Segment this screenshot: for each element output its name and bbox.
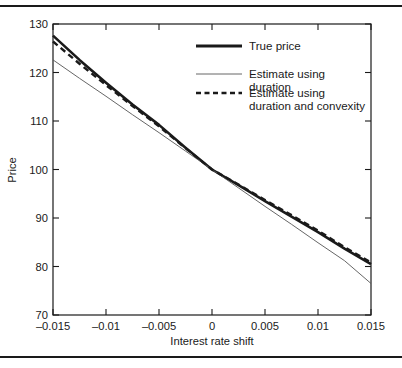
y-tick-label: 100 [29,164,48,176]
y-tick-label: 90 [36,212,48,224]
legend-label-2: Estimate using [249,86,325,99]
x-tick-label: 0 [209,320,215,332]
top-horizontal-rule [0,5,402,7]
x-tick-label: –0.015 [36,320,70,332]
figure-container: 708090100110120130 –0.015–0.01–0.00500.0… [0,0,402,368]
x-tick-label: –0.01 [92,320,120,332]
legend-label-0: True price [249,39,301,52]
chart-legend: True priceEstimate usingdurationEstimate… [196,39,365,112]
y-tick-label: 130 [29,18,48,30]
legend-label-2-line2: duration and convexity [249,99,365,112]
x-axis-label: Interest rate shift [170,335,254,347]
legend-label-1: Estimate using [249,67,325,80]
y-tick-label: 110 [30,115,48,127]
bottom-horizontal-rule [0,356,402,358]
y-tick-label: 80 [36,261,48,273]
x-tick-label: 0.015 [357,320,385,332]
x-tick-label: 0.01 [307,320,329,332]
line-chart: 708090100110120130 –0.015–0.01–0.00500.0… [0,0,402,368]
y-axis-label: Price [6,157,18,183]
x-axis-tick-labels: –0.015–0.01–0.00500.0050.010.015 [36,320,385,332]
y-tick-label: 120 [29,67,48,79]
x-tick-label: –0.005 [142,320,176,332]
x-tick-label: 0.005 [251,320,279,332]
y-axis-tick-labels: 708090100110120130 [29,18,48,321]
